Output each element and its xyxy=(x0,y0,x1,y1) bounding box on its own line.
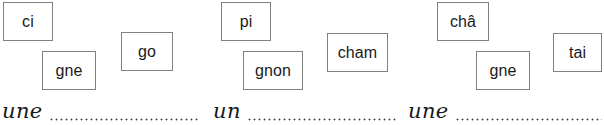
syllable-tile[interactable]: pi xyxy=(221,2,271,41)
answer-row: une xyxy=(408,92,602,125)
dotted-answer-line[interactable] xyxy=(247,118,398,121)
dotted-answer-line[interactable] xyxy=(455,118,602,121)
worksheet-canvas: cignegounepignonchamunchâgnetaiune xyxy=(0,0,604,125)
syllable-tile[interactable]: go xyxy=(121,32,173,71)
syllable-tile[interactable]: tai xyxy=(553,33,602,72)
answer-row: un xyxy=(213,92,398,125)
syllable-tile[interactable]: gne xyxy=(42,51,96,90)
syllable-tile[interactable]: gne xyxy=(476,51,530,90)
syllable-tile[interactable]: gnon xyxy=(243,51,303,90)
syllable-tile[interactable]: cham xyxy=(327,33,388,72)
dotted-answer-line[interactable] xyxy=(49,118,198,121)
syllable-tile[interactable]: châ xyxy=(437,2,489,41)
article-prompt: une xyxy=(2,101,43,122)
answer-row: une xyxy=(2,92,198,125)
article-prompt: un xyxy=(213,101,241,122)
article-prompt: une xyxy=(408,101,449,122)
syllable-tile[interactable]: ci xyxy=(3,2,53,41)
